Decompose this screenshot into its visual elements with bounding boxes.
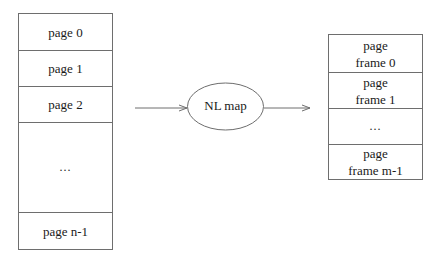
arrow-map-to-frames [264,105,310,111]
arrow-pages-to-map [135,105,187,111]
page-frame-line1: page [363,37,388,54]
page-frame-cell-ellipsis: ... [329,109,422,145]
page-frame-cell-1: page frame 1 [329,73,422,109]
page-frame-cell-last: page frame m-1 [329,145,422,179]
ellipsis-label: ... [370,118,382,135]
page-frame-line2: frame m-1 [348,162,403,179]
nl-map-label: NL map [187,96,264,116]
page-frame-line2: frame 1 [355,91,395,108]
page-frame-cell-0: page frame 0 [329,35,422,73]
page-frame-line1: page [363,74,388,91]
page-frames-table: page frame 0 page frame 1 ... page frame… [328,34,423,180]
page-frame-line2: frame 0 [355,54,395,71]
page-frame-line1: page [363,145,388,162]
